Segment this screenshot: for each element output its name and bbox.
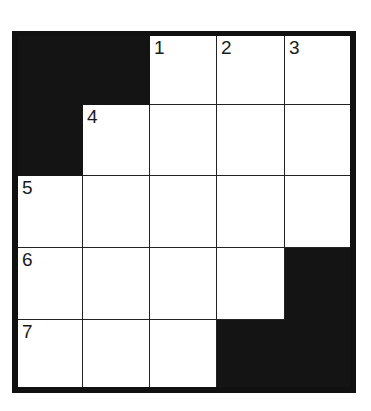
clue-number: 1 <box>154 37 165 59</box>
cell-r3c3[interactable] <box>150 176 217 248</box>
cell-r1c2 <box>83 36 150 105</box>
cell-r5c4 <box>217 320 285 387</box>
cell-r3c4[interactable] <box>217 176 285 248</box>
cell-r1c4[interactable]: 2 <box>217 36 285 105</box>
crossword-grid-frame: 1 2 3 4 5 6 7 <box>12 31 356 393</box>
cell-r3c1[interactable]: 5 <box>18 176 83 248</box>
cell-r1c3[interactable]: 1 <box>150 36 217 105</box>
crossword-grid: 1 2 3 4 5 6 7 <box>18 36 350 387</box>
cell-r5c1[interactable]: 7 <box>18 320 83 387</box>
cell-r3c2[interactable] <box>83 176 150 248</box>
cell-r4c3[interactable] <box>150 248 217 320</box>
cell-r1c1 <box>18 36 83 105</box>
cell-r4c4[interactable] <box>217 248 285 320</box>
cell-r2c2[interactable]: 4 <box>83 105 150 176</box>
clue-number: 3 <box>289 37 300 59</box>
clue-number: 5 <box>22 177 33 199</box>
cell-r5c3[interactable] <box>150 320 217 387</box>
cell-r5c2[interactable] <box>83 320 150 387</box>
cell-r4c1[interactable]: 6 <box>18 248 83 320</box>
cell-r5c5 <box>285 320 350 387</box>
cell-r1c5[interactable]: 3 <box>285 36 350 105</box>
cell-r2c1 <box>18 105 83 176</box>
clue-number: 2 <box>221 37 232 59</box>
cell-r2c4[interactable] <box>217 105 285 176</box>
clue-number: 7 <box>22 321 33 343</box>
cell-r4c2[interactable] <box>83 248 150 320</box>
cell-r2c3[interactable] <box>150 105 217 176</box>
clue-number: 4 <box>87 106 98 128</box>
cell-r4c5 <box>285 248 350 320</box>
cell-r3c5[interactable] <box>285 176 350 248</box>
clue-number: 6 <box>22 249 33 271</box>
cell-r2c5[interactable] <box>285 105 350 176</box>
